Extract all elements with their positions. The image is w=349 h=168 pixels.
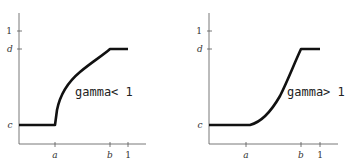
y-tick-label-c: c xyxy=(197,120,202,130)
y-tick-label-d: d xyxy=(197,44,203,54)
annotation-label: gamma> 1 xyxy=(287,85,345,99)
chart-gamma-less-than-one: 1 d c a b 1 gamma< 1 xyxy=(6,13,146,160)
x-tick-label-b: b xyxy=(107,150,113,160)
chart-gamma-greater-than-one: 1 d c a b 1 gamma> 1 xyxy=(196,13,345,160)
y-tick-label-d: d xyxy=(7,44,13,54)
x-tick-label-one: 1 xyxy=(125,150,131,160)
x-tick-label-a: a xyxy=(52,150,57,160)
y-tick-label-c: c xyxy=(7,120,12,130)
x-tick-label-a: a xyxy=(243,150,248,160)
y-tick-label-one: 1 xyxy=(6,26,12,36)
gamma-charts: 1 d c a b 1 gamma< 1 1 d c a b 1 gamma> … xyxy=(0,0,349,168)
annotation-label: gamma< 1 xyxy=(75,85,133,99)
x-tick-label-one: 1 xyxy=(317,150,323,160)
y-tick-label-one: 1 xyxy=(196,26,202,36)
x-tick-label-b: b xyxy=(298,150,304,160)
